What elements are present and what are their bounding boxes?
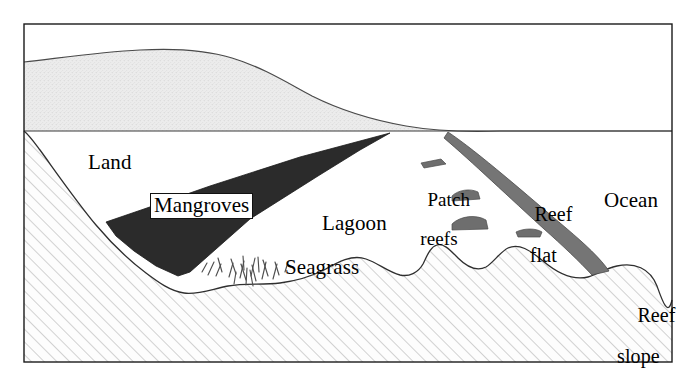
label-reef-flat: Reef flat: [514, 184, 573, 306]
reef-cross-section-diagram: Land Mangroves Lagoon Ocean Seagrass Pat…: [0, 0, 696, 389]
label-seagrass: Seagrass: [285, 257, 359, 278]
label-patch-reefs-line1: Patch: [427, 189, 470, 210]
diagram-canvas: [0, 0, 696, 389]
label-reef-slope-line2: slope: [617, 346, 676, 366]
label-reef-slope: Reef slope: [617, 285, 676, 389]
label-patch-reefs-line2: reefs: [408, 229, 470, 248]
label-reef-flat-line2: flat: [514, 245, 573, 265]
label-reef-slope-line1: Reef: [637, 304, 675, 326]
label-mangroves: Mangroves: [150, 193, 253, 219]
label-land: Land: [88, 152, 132, 173]
label-lagoon: Lagoon: [322, 213, 387, 234]
label-ocean: Ocean: [604, 190, 658, 211]
label-reef-flat-line1: Reef: [534, 203, 572, 225]
label-patch-reefs: Patch reefs: [408, 171, 470, 287]
